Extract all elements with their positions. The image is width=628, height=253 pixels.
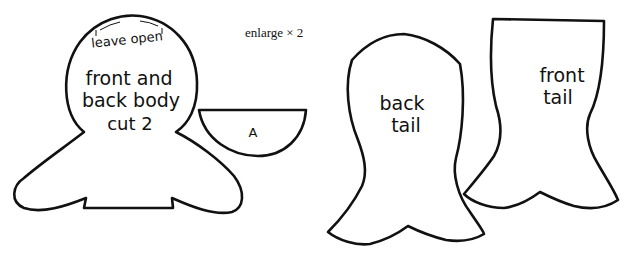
body-label-line2: back body (82, 89, 180, 111)
front-tail-pattern-piece: front tail (464, 19, 618, 208)
piece-a: A (199, 110, 306, 156)
body-label-line1: front and (86, 67, 173, 89)
front-tail-outline (464, 19, 618, 208)
front-tail-label-line2: tail (543, 86, 573, 108)
body-label-line3: cut 2 (107, 113, 153, 134)
back-tail-pattern-piece: back tail (328, 34, 484, 244)
piece-a-label: A (249, 125, 258, 140)
pattern-sheet: leave open front and back body cut 2 A e… (0, 0, 628, 253)
back-tail-label-line2: tail (391, 114, 421, 136)
back-tail-label-line1: back (379, 92, 424, 114)
back-tail-outline (328, 34, 484, 244)
enlarge-note: enlarge × 2 (245, 25, 303, 40)
front-tail-label-line1: front (539, 64, 584, 86)
